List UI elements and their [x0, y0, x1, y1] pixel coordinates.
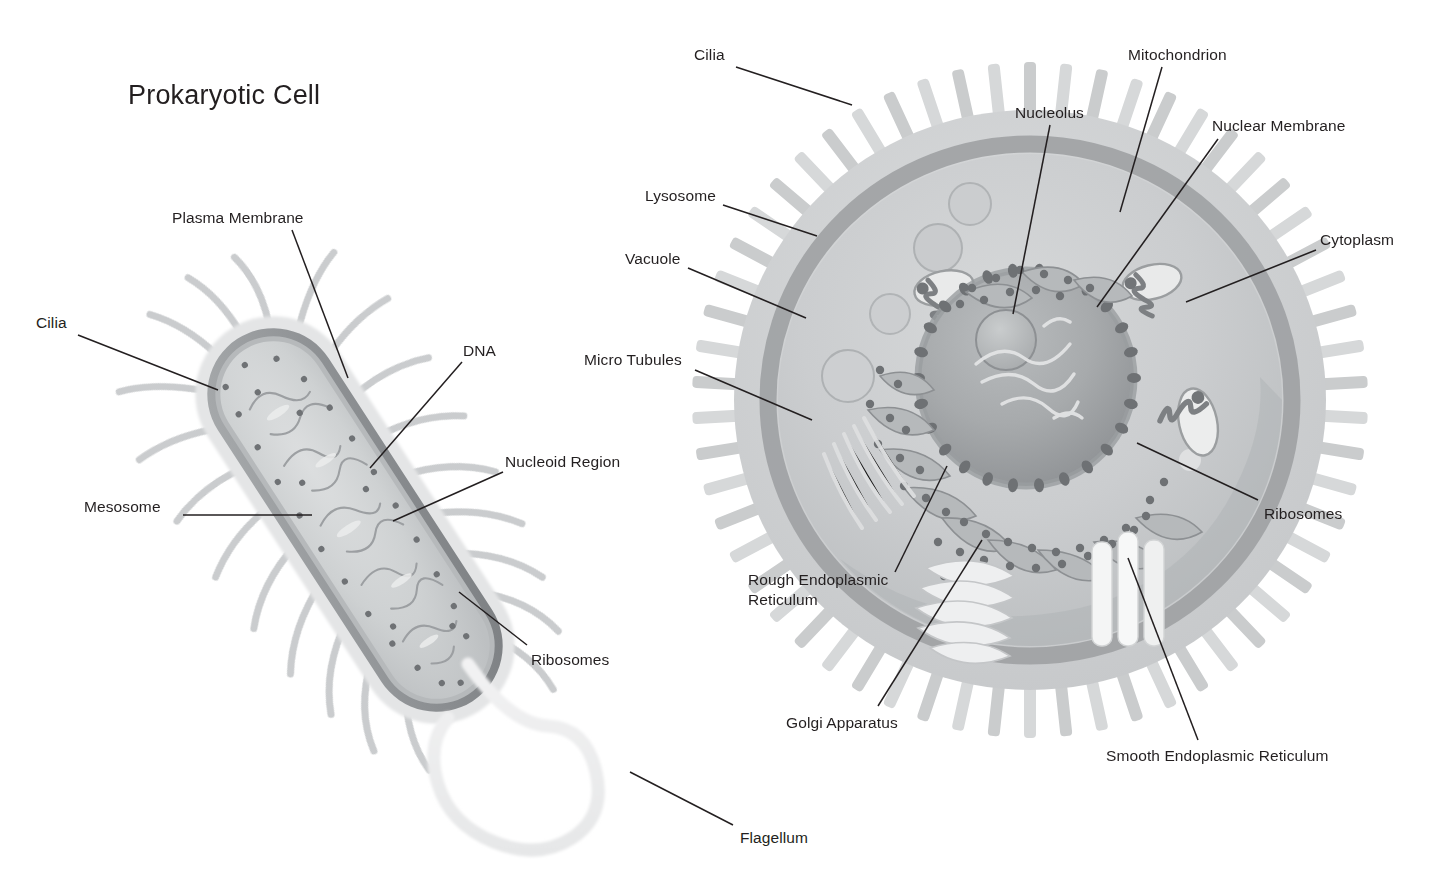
label-smooth-endoplasmic-reticulum: Smooth Endoplasmic Reticulum: [1106, 746, 1328, 766]
lysosome-vesicle: [914, 224, 962, 272]
leader-line-cilia: [78, 335, 218, 390]
leader-line-cilia: [736, 67, 852, 105]
ribosome-dot: [1040, 270, 1048, 278]
leader-line-flagellum: [630, 772, 733, 825]
ribosome-dot: [866, 400, 874, 408]
cilium: [1024, 684, 1036, 738]
ribosome-dot: [1052, 548, 1060, 556]
cilium: [987, 682, 1005, 737]
ribosome-dot: [1058, 560, 1066, 568]
lysosome-vesicle: [870, 294, 910, 334]
cilium: [987, 63, 1005, 118]
ribosome-dot: [1142, 512, 1150, 520]
vacuole-vesicle: [822, 350, 874, 402]
ribosome-dot: [982, 530, 990, 538]
ribosome-dot: [896, 454, 904, 462]
label-vacuole: Vacuole: [625, 249, 681, 269]
ribosome-dot: [1160, 478, 1168, 486]
label-nucleoid-region: Nucleoid Region: [505, 452, 620, 472]
ribosome-dot: [1006, 562, 1014, 570]
page-title: Prokaryotic Cell: [128, 80, 320, 111]
label-lysosome: Lysosome: [645, 186, 716, 206]
cilium: [1085, 676, 1108, 731]
ribosome-dot: [1028, 544, 1036, 552]
label-cilia-eukaryote: Cilia: [694, 45, 725, 65]
nuclear-pore: [1127, 373, 1141, 383]
ribosome-dot: [968, 284, 976, 292]
ribosome-dot: [1056, 292, 1064, 300]
ribosome-dot: [992, 274, 1000, 282]
ribosome-dot: [942, 508, 950, 516]
label-cilia-prokaryote: Cilia: [36, 313, 67, 333]
cilium: [951, 676, 974, 731]
label-mitochondrion: Mitochondrion: [1128, 45, 1227, 65]
ribosome-dot: [1122, 524, 1130, 532]
vacuole-vesicle: [949, 183, 991, 225]
cilium: [1085, 69, 1108, 124]
ribosome-dot: [1032, 564, 1040, 572]
eukaryotic-cell-illustration: [692, 62, 1368, 738]
label-dna: DNA: [463, 341, 496, 361]
ribosome-dot: [956, 300, 964, 308]
label-golgi-apparatus: Golgi Apparatus: [786, 713, 898, 733]
eukaryote-smooth-er: [1092, 532, 1164, 646]
label-flagellum: Flagellum: [740, 828, 808, 848]
ribosome-dot: [886, 414, 894, 422]
diagram-canvas: Prokaryotic Cell Plasma Membrane Cilia D…: [0, 0, 1436, 885]
ribosome-dot: [960, 518, 968, 526]
label-nucleolus: Nucleolus: [1015, 103, 1084, 123]
ribosome-dot: [876, 366, 884, 374]
cilium: [1055, 682, 1073, 737]
label-rough-endoplasmic-reticulum: Rough Endoplasmic Reticulum: [748, 570, 923, 610]
label-ribosomes-prokaryote: Ribosomes: [531, 650, 609, 670]
ribosome-dot: [1004, 538, 1012, 546]
ribosome-dot: [1086, 284, 1094, 292]
label-plasma-membrane: Plasma Membrane: [172, 208, 304, 228]
ribosome-dot: [894, 380, 902, 388]
label-micro-tubules: Micro Tubules: [584, 350, 682, 370]
ribosome-dot: [934, 538, 942, 546]
cilium: [951, 69, 974, 124]
ribosome-dot: [1006, 288, 1014, 296]
ribosome-dot: [1032, 286, 1040, 294]
ribosome-dot: [1084, 552, 1092, 560]
ribosome-dot: [1064, 276, 1072, 284]
ribosome-dot: [980, 296, 988, 304]
label-cytoplasm: Cytoplasm: [1320, 230, 1394, 250]
ribosome-dot: [1076, 544, 1084, 552]
label-ribosomes-eukaryote: Ribosomes: [1264, 504, 1342, 524]
ribosome-dot: [902, 426, 910, 434]
label-nuclear-membrane: Nuclear Membrane: [1212, 116, 1345, 136]
label-mesosome: Mesosome: [84, 497, 161, 517]
ribosome-dot: [956, 548, 964, 556]
ribosome-dot: [1146, 496, 1154, 504]
ribosome-dot: [916, 466, 924, 474]
ribosome-dot: [922, 494, 930, 502]
